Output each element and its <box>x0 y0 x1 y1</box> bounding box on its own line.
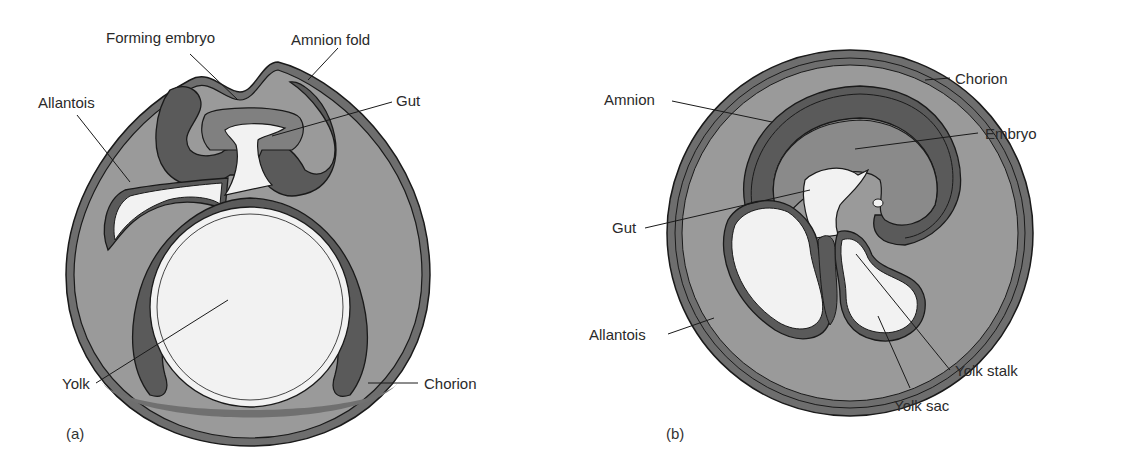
label-allantois-b: Allantois <box>589 327 646 342</box>
panel-label-b: (b) <box>666 426 684 441</box>
label-chorion-a: Chorion <box>424 376 477 391</box>
embryo-eye-b <box>873 199 883 207</box>
label-yolk-stalk: Yolk stalk <box>955 363 1018 378</box>
label-amnion-b: Amnion <box>604 92 655 107</box>
yolk-a <box>150 207 350 407</box>
panel-label-a: (a) <box>66 426 84 441</box>
label-gut-a: Gut <box>396 93 420 108</box>
label-allantois-a: Allantois <box>38 95 95 110</box>
leader-amnion-fold <box>308 48 338 80</box>
panel-a-drawing <box>66 62 430 446</box>
label-embryo-b: Embryo <box>985 126 1037 141</box>
label-gut-b: Gut <box>612 220 636 235</box>
label-amnion-fold: Amnion fold <box>291 32 370 47</box>
label-forming-embryo: Forming embryo <box>106 30 215 45</box>
label-yolk-sac: Yolk sac <box>894 398 949 413</box>
label-yolk: Yolk <box>62 376 90 391</box>
label-chorion-b: Chorion <box>955 71 1008 86</box>
